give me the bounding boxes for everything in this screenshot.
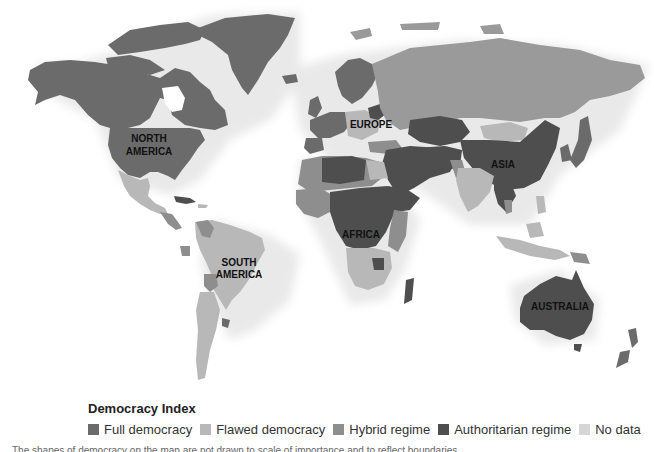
legend-label: No data (595, 422, 641, 437)
legend-label: Hybrid regime (349, 422, 430, 437)
iberia (304, 138, 324, 154)
label-south-america-line1: SOUTH (222, 257, 257, 268)
legend: Democracy Index Full democracy Flawed de… (88, 401, 649, 437)
legend-label: Flawed democracy (216, 422, 325, 437)
legend-item-authoritarian-regime: Authoritarian regime (438, 422, 571, 437)
arctic-islands-ru (350, 22, 504, 40)
swatch-full-democracy (88, 424, 99, 435)
png (570, 252, 590, 264)
label-asia: ASIA (491, 159, 515, 170)
world-map: NORTH AMERICA SOUTH AMERICA EUROPE AFRIC… (0, 0, 654, 405)
legend-item-hybrid-regime: Hybrid regime (333, 422, 430, 437)
label-australia: AUSTRALIA (531, 301, 589, 312)
indonesia (496, 222, 570, 260)
zimbabwe (372, 258, 384, 270)
legend-item-full-democracy: Full democracy (88, 422, 192, 437)
swatch-no-data (579, 424, 590, 435)
label-south-america-line2: AMERICA (216, 269, 263, 280)
tasmania (574, 344, 582, 352)
ecuador (180, 246, 190, 256)
label-north-america-line1: NORTH (131, 133, 167, 144)
label-europe: EUROPE (350, 119, 393, 130)
label-north-america-line2: AMERICA (126, 146, 173, 157)
swatch-hybrid-regime (333, 424, 344, 435)
swatch-flawed-democracy (200, 424, 211, 435)
swatch-authoritarian-regime (438, 424, 449, 435)
new-zealand (616, 328, 638, 368)
chile-argentina (196, 292, 220, 380)
caption: The shapes of democracy on the map are n… (12, 444, 652, 452)
legend-label: Authoritarian regime (454, 422, 571, 437)
legend-item-no-data: No data (579, 422, 641, 437)
legend-title: Democracy Index (88, 401, 649, 416)
legend-item-flawed-democracy: Flawed democracy (200, 422, 325, 437)
label-africa: AFRICA (342, 229, 380, 240)
madagascar (404, 278, 414, 304)
legend-items: Full democracy Flawed democracy Hybrid r… (88, 422, 649, 437)
legend-label: Full democracy (104, 422, 192, 437)
algeria-libya (322, 156, 366, 184)
